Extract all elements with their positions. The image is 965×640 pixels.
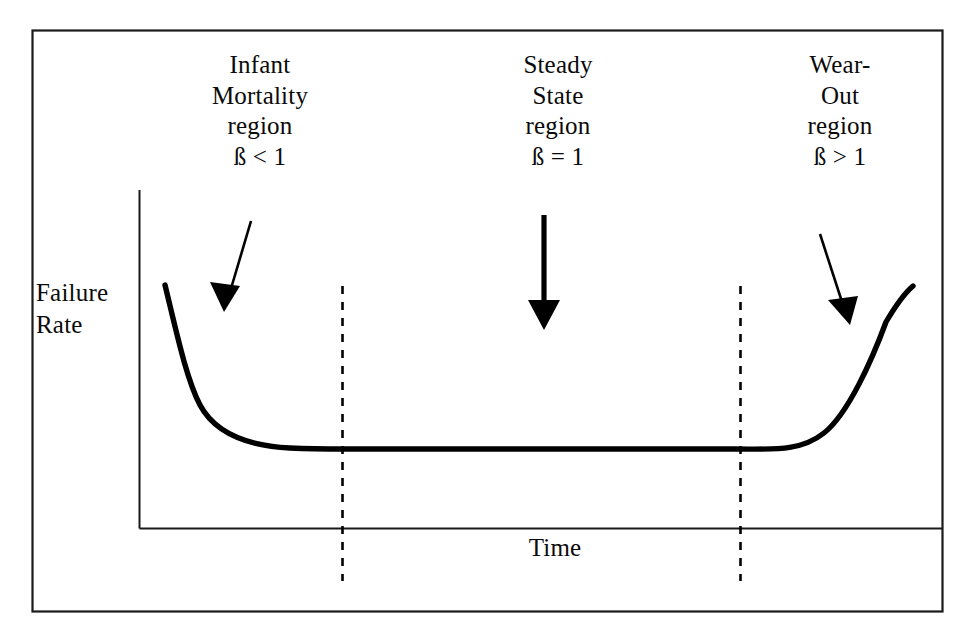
arrow-head-infant-mortality xyxy=(210,282,240,312)
arrow-head-wear-out xyxy=(828,296,858,325)
annotation-arrow-infant-mortality xyxy=(210,221,251,312)
arrow-head-steady-state xyxy=(528,300,560,330)
annotation-arrow-wear-out xyxy=(820,234,858,325)
x-axis-label: Time xyxy=(455,533,655,564)
region-label-wear-out: Wear- Out region ß > 1 xyxy=(725,50,955,172)
region-label-infant-mortality: Infant Mortality region ß < 1 xyxy=(145,50,375,172)
arrow-shaft-infant-mortality xyxy=(230,221,251,292)
bathtub-curve-figure: Infant Mortality region ß < 1 Steady Sta… xyxy=(0,0,965,640)
arrow-shaft-wear-out xyxy=(820,234,843,305)
annotation-arrow-steady-state xyxy=(528,215,560,330)
y-axis-label: Failure Rate xyxy=(36,277,140,341)
region-label-steady-state: Steady State region ß = 1 xyxy=(443,50,673,172)
